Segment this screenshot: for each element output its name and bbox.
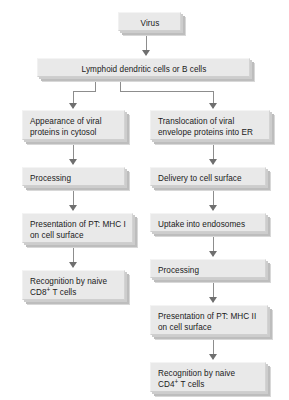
node-left-3-line1: Presentation of PT: MHC I [30, 219, 126, 230]
arrowhead-virus-to-apc [142, 50, 150, 56]
node-virus: Virus [118, 12, 181, 31]
node-right-5-line2: on cell surface [158, 322, 261, 333]
node-right-1-line2: envelope proteins into ER [158, 127, 263, 138]
node-left-4-line2: CD8+ T cells [30, 287, 118, 298]
node-right-4-line1: Processing [158, 265, 259, 276]
node-left-processing: Processing [22, 167, 125, 186]
arrowhead-right-1-to-2 [209, 159, 217, 165]
node-left-appearance-of-viral-proteins: Appearance of viral proteins in cytosol [22, 110, 125, 140]
node-right-2-line1: Delivery to cell surface [158, 173, 259, 184]
node-right-3-line1: Uptake into endosomes [158, 219, 259, 230]
node-right-recognition-cd4: Recognition by naive CD4+ T cells [150, 362, 266, 392]
node-left-presentation-mhc-i: Presentation of PT: MHC I on cell surfac… [22, 213, 133, 243]
node-left-4-cd8: CD8 [30, 288, 47, 297]
arrowhead-to-left-1 [69, 103, 77, 109]
node-right-6-superscript: + [175, 378, 179, 385]
node-left-4-line1: Recognition by naive [30, 276, 118, 287]
arrowhead-left-1-to-2 [69, 159, 77, 165]
node-right-5-line1: Presentation of PT: MHC II [158, 311, 261, 322]
arrowhead-to-right-1 [209, 103, 217, 109]
node-left-4-superscript: + [47, 286, 51, 293]
node-left-recognition-cd8: Recognition by naive CD8+ T cells [22, 270, 125, 300]
node-virus-label: Virus [126, 18, 174, 29]
branch-rail-right [120, 91, 214, 92]
node-left-3-line2: on cell surface [30, 230, 126, 241]
node-apc-label: Lymphoid dendritic cells or B cells [45, 64, 243, 75]
node-right-6-cd4: CD4 [158, 380, 175, 389]
arrowhead-right-5-to-6 [209, 354, 217, 360]
arrowhead-left-3-to-4 [69, 262, 77, 268]
node-right-delivery-to-cell-surface: Delivery to cell surface [150, 167, 266, 186]
node-left-2-line1: Processing [30, 173, 118, 184]
node-right-6-tcells: T cells [178, 380, 204, 389]
arrowhead-left-2-to-3 [69, 205, 77, 211]
branch-rail-left [73, 91, 96, 92]
node-left-4-tcells: T cells [50, 288, 76, 297]
node-right-translocation-into-er: Translocation of viral envelope proteins… [150, 110, 270, 140]
flowchart-diagram: Virus Lymphoid dendritic cells or B cell… [0, 0, 289, 400]
node-left-1-line1: Appearance of viral [30, 116, 118, 127]
node-right-processing: Processing [150, 259, 266, 278]
node-right-6-line1: Recognition by naive [158, 368, 259, 379]
arrowhead-right-3-to-4 [209, 251, 217, 257]
node-right-presentation-mhc-ii: Presentation of PT: MHC II on cell surfa… [150, 305, 268, 335]
node-right-1-line1: Translocation of viral [158, 116, 263, 127]
arrowhead-right-4-to-5 [209, 297, 217, 303]
node-right-uptake-into-endosomes: Uptake into endosomes [150, 213, 266, 232]
node-right-6-line2: CD4+ T cells [158, 379, 259, 390]
node-antigen-presenting-cells: Lymphoid dendritic cells or B cells [37, 58, 250, 77]
arrowhead-right-2-to-3 [209, 205, 217, 211]
node-left-1-line2: proteins in cytosol [30, 127, 118, 138]
